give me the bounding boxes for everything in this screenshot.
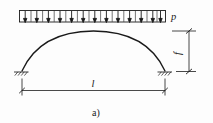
rise-dimension-group — [172, 28, 196, 74]
load-arrow — [159, 11, 162, 23]
right-support-hatching — [158, 72, 171, 76]
load-arrow — [58, 11, 61, 23]
load-arrow — [116, 11, 119, 23]
load-label: p — [170, 11, 176, 22]
load-box — [20, 11, 166, 23]
figure-caption: a) — [92, 107, 100, 119]
load-arrow — [24, 11, 27, 23]
left-support-hatching — [15, 72, 28, 76]
arch-figure: p — [0, 0, 213, 123]
load-arrow — [47, 11, 50, 23]
arch-diagram-canvas: p — [0, 0, 213, 123]
load-arrow — [93, 11, 96, 23]
distributed-load-group: p — [20, 11, 177, 23]
right-pin-support — [158, 72, 173, 76]
rise-label: f — [172, 50, 183, 55]
load-arrow-group — [24, 11, 163, 23]
left-pin-support — [14, 72, 29, 76]
load-arrow — [105, 11, 108, 23]
arch-rib — [22, 31, 165, 71]
load-arrow — [35, 11, 38, 23]
span-label: l — [92, 78, 95, 89]
load-arrow — [140, 11, 143, 23]
load-arrow — [70, 11, 73, 23]
load-arrow — [82, 11, 85, 23]
load-arrow — [151, 11, 154, 23]
load-arrow — [128, 11, 131, 23]
arch-rib-group — [22, 31, 165, 71]
